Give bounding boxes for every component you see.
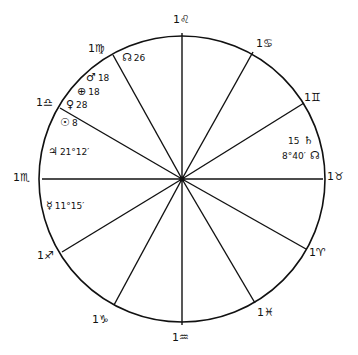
cusp-label-aquarius: 1♒ [172, 332, 189, 343]
placement-jupiter: ♃21°12′ [48, 146, 89, 157]
sun-icon: ☉ [60, 116, 70, 129]
cusp-label-sagittarius: 1♐ [37, 250, 54, 261]
jupiter-icon: ♃ [48, 145, 58, 158]
placement-value: 21°12′ [60, 147, 89, 157]
placement-node: ☊26 [122, 52, 145, 63]
placement-value: 8 [72, 118, 78, 128]
earth-icon: ⊕ [77, 85, 86, 98]
cusp-label-scorpio: 1♏ [13, 172, 30, 183]
node-icon: ☊ [122, 51, 132, 64]
cusp-label-gemini: 1♊ [304, 92, 321, 103]
spoke-gemini [182, 103, 304, 179]
cusp-label-aries: 1♈ [309, 247, 326, 258]
spoke-capricorn [114, 179, 182, 305]
spoke-sagittarius [62, 179, 182, 252]
placement-mars: ♂18 [86, 72, 109, 83]
placement-value: 11°15′ [55, 201, 84, 211]
placement-value: 18 [88, 87, 99, 97]
placement-value: 18 [98, 73, 109, 83]
cusp-label-cancer: 1♋ [256, 38, 273, 49]
spoke-virgo [113, 55, 182, 179]
placement-venus: ♀28 [66, 99, 88, 110]
placement-value: 26 [134, 53, 145, 63]
placement-mercury: ☿11°15′ [46, 200, 84, 211]
mars-icon: ♂ [86, 71, 96, 84]
spoke-libra [60, 108, 182, 179]
spoke-pisces [182, 179, 255, 303]
center-dot [180, 177, 185, 182]
cusp-label-libra: 1♎ [36, 97, 53, 108]
placement-value: 8°40′ [282, 151, 306, 161]
saturn-icon: ♄ [303, 134, 313, 147]
placement-node-gemini: 8°40′☊ [282, 150, 320, 161]
placement-earth: ⊕18 [77, 86, 100, 97]
cusp-label-taurus: 1♉ [327, 171, 344, 182]
cusp-label-leo: 1♌ [173, 14, 190, 25]
spoke-cancer [182, 52, 253, 179]
cusp-label-capricorn: 1♑ [92, 314, 109, 325]
mercury-icon: ☿ [46, 199, 53, 212]
node-gemini-icon: ☊ [310, 149, 320, 162]
venus-icon: ♀ [66, 98, 74, 111]
placement-sun: ☉8 [60, 117, 78, 128]
placement-value: 28 [76, 100, 87, 110]
cusp-label-pisces: 1♓ [257, 307, 274, 318]
placement-saturn: 15♄ [288, 135, 313, 146]
cusp-label-virgo: 1♍ [88, 43, 105, 54]
astro-wheel [0, 0, 358, 355]
spoke-aries [182, 179, 306, 249]
placement-value: 15 [288, 136, 299, 146]
